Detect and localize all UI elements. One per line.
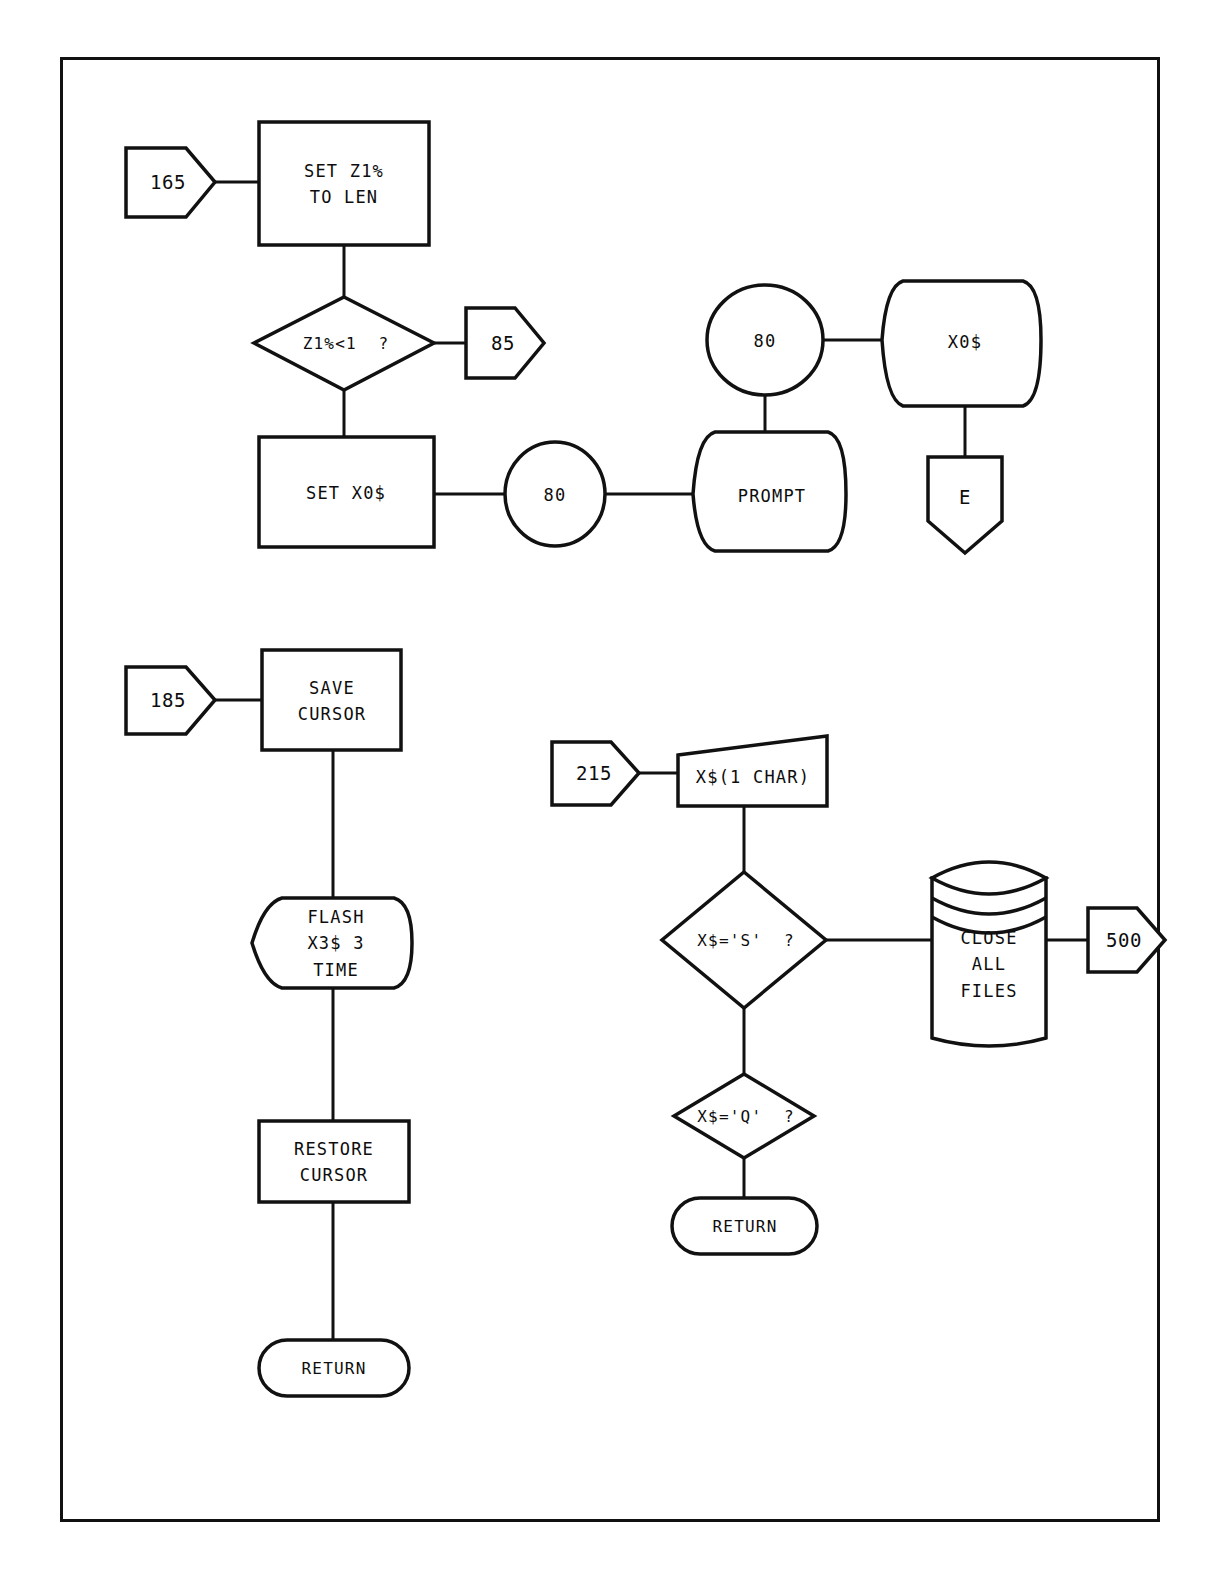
flowchart-page: 165 SET Z1% TO LEN Z1%<1 ? 85 SET X0$ 80…	[0, 0, 1217, 1577]
process-set-z1[interactable]	[259, 122, 429, 245]
decision-x-is-q[interactable]	[674, 1074, 814, 1158]
display-prompt[interactable]	[693, 432, 846, 551]
process-save-cursor[interactable]	[262, 650, 401, 750]
connector-165[interactable]	[126, 148, 215, 217]
database-close-all-files[interactable]	[932, 862, 1046, 1046]
terminator-return-left[interactable]	[259, 1340, 409, 1396]
circle-80-lower[interactable]	[505, 442, 605, 546]
connector-185[interactable]	[126, 667, 215, 734]
circle-80-upper[interactable]	[707, 285, 823, 395]
process-set-x0[interactable]	[259, 437, 434, 547]
decision-z1-lt-1[interactable]	[254, 297, 434, 390]
connector-215[interactable]	[552, 742, 639, 805]
flowchart-canvas	[0, 0, 1217, 1577]
connector-500[interactable]	[1088, 908, 1165, 972]
connector-85[interactable]	[466, 308, 544, 378]
decision-x-is-s[interactable]	[662, 872, 826, 1008]
process-restore-cursor[interactable]	[259, 1121, 409, 1202]
connector-e[interactable]	[928, 457, 1002, 553]
display-flash[interactable]	[252, 898, 412, 988]
display-x0[interactable]	[882, 281, 1041, 406]
terminator-return-right[interactable]	[672, 1198, 817, 1254]
manual-input-x-char[interactable]	[678, 736, 827, 806]
